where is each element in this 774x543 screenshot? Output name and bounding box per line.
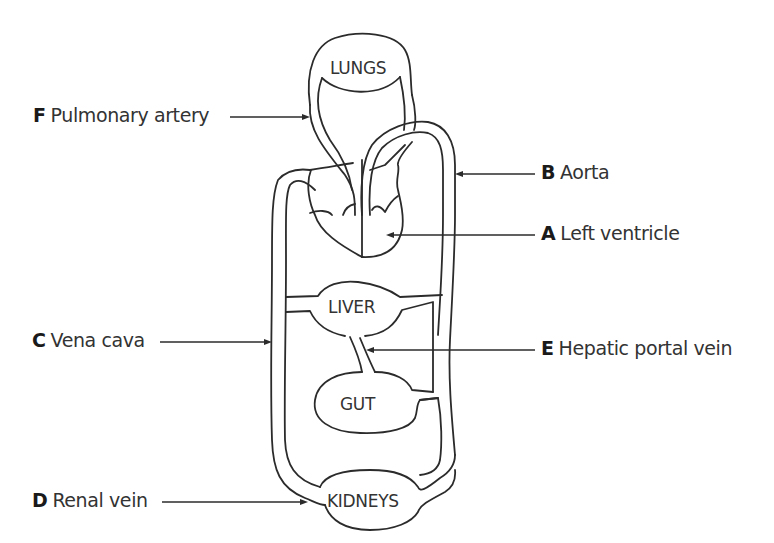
arrowhead-b-icon [455, 171, 463, 177]
label-d-renal-vein: DRenal vein [32, 489, 148, 511]
label-text: Renal vein [52, 489, 147, 511]
organ-label-liver: LIVER [328, 297, 376, 317]
label-a-left-ventricle: ALeft ventricle [541, 222, 679, 244]
label-f-pulmonary-artery: FPulmonary artery [33, 104, 209, 126]
organ-label-lungs: LUNGS [330, 58, 386, 78]
label-c-vena-cava: CVena cava [32, 329, 145, 351]
arrowhead-f-icon [302, 114, 310, 120]
label-text: Left ventricle [560, 222, 679, 244]
label-text: Pulmonary artery [51, 104, 210, 126]
label-e-hepatic-portal-vein: EHepatic portal vein [541, 337, 732, 359]
lungs-organ: LUNGS [309, 34, 412, 105]
organ-label-kidneys: KIDNEYS [327, 491, 399, 511]
label-text: Vena cava [51, 329, 145, 351]
label-letter: E [541, 337, 554, 359]
label-text: Aorta [560, 161, 609, 183]
label-letter: A [541, 222, 555, 244]
label-letter: F [33, 104, 46, 126]
arrowhead-d-icon [300, 499, 308, 505]
organ-label-gut: GUT [340, 394, 376, 414]
arrowhead-a-icon [386, 232, 394, 238]
hepatic-portal-vein-vessel [350, 337, 375, 372]
arrowhead-e-icon [366, 347, 374, 353]
heart-organ [308, 142, 412, 257]
label-letter: D [32, 489, 47, 511]
liver-organ: LIVER [286, 282, 442, 392]
gut-organ: GUT [315, 372, 442, 475]
circulatory-system-diagram: LUNGS LIVER [0, 0, 774, 543]
label-letter: C [32, 329, 46, 351]
label-letter: B [541, 161, 555, 183]
aorta-vessel [361, 122, 455, 455]
kidneys-organ: KIDNEYS [320, 455, 455, 530]
label-b-aorta: BAorta [541, 161, 609, 183]
label-text: Hepatic portal vein [559, 337, 732, 359]
